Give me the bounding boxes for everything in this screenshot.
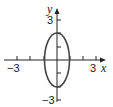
y-max-label: 3 [47, 14, 53, 26]
y-min-label: −3 [42, 94, 55, 106]
x-min-label: −3 [7, 62, 20, 74]
y-axis-arrow-icon [55, 8, 60, 14]
x-axis-label: x [100, 61, 107, 75]
ellipse-graph: y 3 −3 −3 3 x [0, 0, 113, 107]
x-max-label: 3 [90, 62, 96, 74]
